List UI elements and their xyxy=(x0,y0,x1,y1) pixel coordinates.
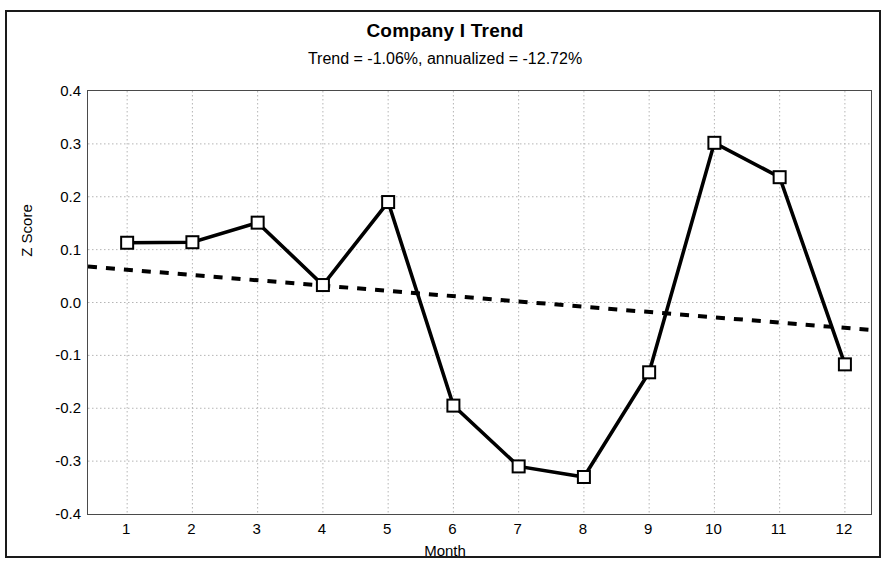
y-tick-label: 0.2 xyxy=(37,187,81,204)
chart-frame: Company I Trend Trend = -1.06%, annualiz… xyxy=(5,10,881,558)
x-tick-label: 2 xyxy=(187,520,195,537)
chart-subtitle: Trend = -1.06%, annualized = -12.72% xyxy=(7,50,883,68)
data-point-marker[interactable] xyxy=(317,279,329,291)
y-tick-label: 0.4 xyxy=(37,82,81,99)
trend-line xyxy=(88,267,871,330)
data-line xyxy=(127,143,845,477)
data-point-marker[interactable] xyxy=(708,137,720,149)
y-tick-label: -0.1 xyxy=(37,346,81,363)
data-point-marker[interactable] xyxy=(578,471,590,483)
x-tick-label: 8 xyxy=(579,520,587,537)
x-tick-label: 1 xyxy=(122,520,130,537)
y-tick-label: 0.1 xyxy=(37,240,81,257)
plot-area xyxy=(87,90,872,515)
y-tick-label: -0.2 xyxy=(37,399,81,416)
y-axis-tick-labels: 0.40.30.20.10.0-0.1-0.2-0.3-0.4 xyxy=(31,90,81,513)
x-tick-label: 10 xyxy=(705,520,722,537)
data-point-marker[interactable] xyxy=(774,171,786,183)
y-tick-label: -0.4 xyxy=(37,505,81,522)
data-point-marker[interactable] xyxy=(382,196,394,208)
data-point-marker[interactable] xyxy=(513,460,525,472)
x-tick-label: 9 xyxy=(644,520,652,537)
x-tick-label: 11 xyxy=(771,520,787,537)
data-point-marker[interactable] xyxy=(121,237,133,249)
x-tick-label: 6 xyxy=(448,520,456,537)
plot-svg xyxy=(88,91,871,514)
y-tick-label: 0.3 xyxy=(37,134,81,151)
x-tick-label: 3 xyxy=(252,520,260,537)
x-tick-label: 7 xyxy=(513,520,521,537)
data-point-marker[interactable] xyxy=(839,358,851,370)
x-axis-tick-labels: 123456789101112 xyxy=(87,520,870,544)
data-point-marker[interactable] xyxy=(643,366,655,378)
x-tick-label: 5 xyxy=(383,520,391,537)
chart-title: Company I Trend xyxy=(7,20,883,42)
y-tick-label: -0.3 xyxy=(37,452,81,469)
x-tick-label: 4 xyxy=(318,520,326,537)
data-point-marker[interactable] xyxy=(186,236,198,248)
x-axis-title: Month xyxy=(7,542,883,559)
data-point-marker[interactable] xyxy=(252,217,264,229)
x-tick-label: 12 xyxy=(836,520,853,537)
data-point-marker[interactable] xyxy=(447,400,459,412)
y-tick-label: 0.0 xyxy=(37,293,81,310)
